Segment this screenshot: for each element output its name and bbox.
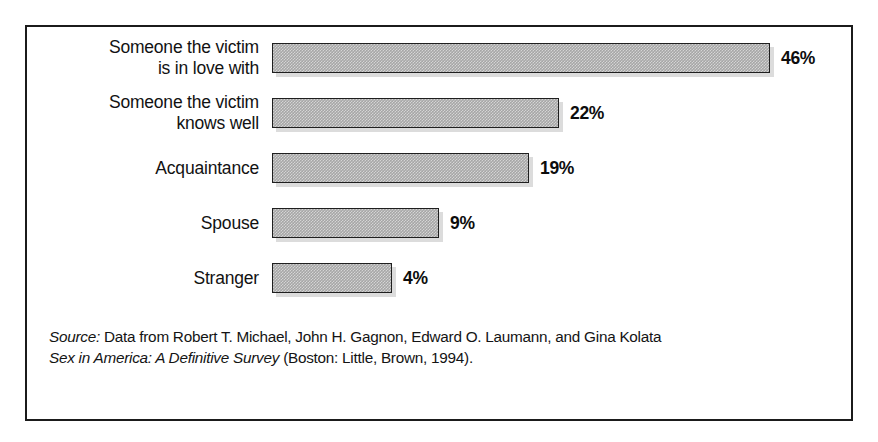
source-book-title: Sex in America: A Definitive Survey <box>49 349 279 366</box>
bar-category-label: Acquaintance <box>27 158 259 179</box>
bar-track: 22% <box>272 94 604 132</box>
bar-value-label: 9% <box>450 213 475 234</box>
bar-shape <box>272 208 439 238</box>
bar-row: Acquaintance 19% <box>27 149 851 187</box>
chart-frame: Someone the victim is in love with 46% S… <box>25 25 853 421</box>
bar-value-label: 22% <box>570 103 604 124</box>
bar-shape <box>272 263 392 293</box>
bar-shape <box>272 43 770 73</box>
source-line-one: Source: Data from Robert T. Michael, Joh… <box>49 327 837 348</box>
source-publication-info: (Boston: Little, Brown, 1994). <box>279 349 473 366</box>
bar-shape <box>272 98 559 128</box>
bar-value-label: 4% <box>403 268 428 289</box>
bar-row: Spouse 9% <box>27 204 851 242</box>
bar-track: 4% <box>272 259 428 297</box>
bar-row: Someone the victim knows well 22% <box>27 94 851 132</box>
bar-row: Someone the victim is in love with 46% <box>27 39 851 77</box>
bar-track: 9% <box>272 204 475 242</box>
source-label: Source: <box>49 328 100 345</box>
bar-category-label: Stranger <box>27 268 259 289</box>
bar-value-label: 19% <box>540 158 574 179</box>
bar-track: 46% <box>272 39 815 77</box>
bar-shape <box>272 153 529 183</box>
bar-track: 19% <box>272 149 574 187</box>
source-note: Source: Data from Robert T. Michael, Joh… <box>49 327 837 368</box>
bar-row: Stranger 4% <box>27 259 851 297</box>
bar-value-label: 46% <box>781 48 815 69</box>
source-line-one-text: Data from Robert T. Michael, John H. Gag… <box>100 328 661 345</box>
bar-chart-plot: Someone the victim is in love with 46% S… <box>27 27 851 317</box>
bar-category-label: Someone the victim is in love with <box>27 37 259 79</box>
bar-category-label: Spouse <box>27 213 259 234</box>
bar-category-label: Someone the victim knows well <box>27 92 259 134</box>
source-line-two: Sex in America: A Definitive Survey (Bos… <box>49 348 837 369</box>
